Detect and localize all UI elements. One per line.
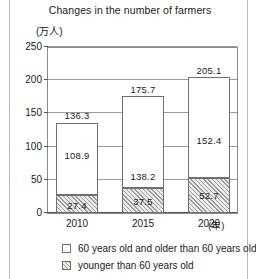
- ytick-label-250: 250: [8, 41, 42, 52]
- bar-segment-older-2020[interactable]: 152.4: [188, 77, 230, 178]
- legend-swatch-open-square-icon: [62, 244, 71, 253]
- bar-segment-younger-2010[interactable]: 27.4: [56, 195, 98, 213]
- bar-label-younger-2010: 27.4: [57, 200, 97, 211]
- ytick-mark-100: [44, 146, 48, 147]
- farmers-bar-chart-figure: Changes in the number of farmers (万人) (年…: [0, 0, 256, 279]
- bar-segment-older-2010[interactable]: 108.9: [56, 123, 98, 195]
- ytick-mark-200: [44, 79, 48, 80]
- gridline-250: 250: [48, 46, 237, 47]
- ytick-mark-250: [44, 46, 48, 47]
- bar-label-total-2020: 205.1: [185, 65, 233, 76]
- chart-title: Changes in the number of farmers: [30, 4, 230, 16]
- bar-segment-younger-2015[interactable]: 37.5: [122, 188, 164, 213]
- ytick-mark-50: [44, 179, 48, 180]
- legend-label-older: 60 years old and older than 60 years old: [78, 243, 256, 254]
- ytick-label-200: 200: [8, 74, 42, 85]
- bar-label-older-2010: 108.9: [57, 150, 97, 161]
- y-axis-unit-label: (万人): [36, 23, 63, 38]
- bar-label-older-2015: 138.2: [123, 171, 163, 182]
- ytick-label-100: 100: [8, 140, 42, 151]
- ytick-label-150: 150: [8, 107, 42, 118]
- legend-item-younger[interactable]: younger than 60 years old: [62, 257, 252, 274]
- ytick-label-50: 50: [8, 173, 42, 184]
- legend-swatch-hatched-square-icon: [62, 261, 71, 270]
- bar-label-total-2015: 175.7: [119, 84, 167, 95]
- bar-label-older-2020: 152.4: [189, 135, 229, 146]
- xtick-label-2010: 2010: [50, 218, 104, 229]
- xtick-label-2015: 2015: [116, 218, 170, 229]
- bar-label-younger-2020: 52.7: [189, 190, 229, 201]
- legend: 60 years old and older than 60 years old…: [62, 240, 252, 274]
- legend-item-older[interactable]: 60 years old and older than 60 years old: [62, 240, 252, 257]
- bar-label-total-2010: 136.3: [53, 110, 101, 121]
- bar-segment-older-2015[interactable]: 138.2: [122, 96, 164, 188]
- ytick-mark-150: [44, 112, 48, 113]
- ytick-label-0: 0: [8, 207, 42, 218]
- legend-label-younger: younger than 60 years old: [78, 260, 194, 271]
- bar-segment-younger-2020[interactable]: 52.7: [188, 178, 230, 213]
- xtick-label-2020: 2020: [182, 218, 236, 229]
- plot-area: 0 50 100 150 200 250 27.4: [47, 47, 238, 214]
- bar-label-younger-2015: 37.5: [123, 196, 163, 207]
